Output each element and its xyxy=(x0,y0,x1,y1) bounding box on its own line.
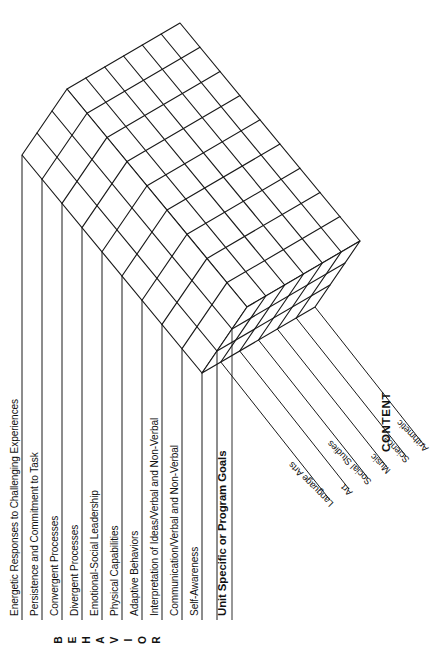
behavior-letter-3: A xyxy=(95,636,106,644)
diagram-canvas: Energetic Responses to Challenging Exper… xyxy=(0,0,445,663)
behavior-label-4: Emotional-Social Leadership xyxy=(89,490,100,616)
content-axis-title: CONTENT xyxy=(379,392,392,452)
curriculum-cube-diagram: Energetic Responses to Challenging Exper… xyxy=(0,0,445,663)
behavior-label-9: Self-Awareness xyxy=(189,547,200,616)
behavior-label-7: Interpretation of Ideas/Verbal and Non-V… xyxy=(149,418,160,616)
behavior-letter-5: I xyxy=(123,638,134,641)
behavior-letter-1: E xyxy=(67,636,78,643)
behavior-letter-0: B xyxy=(53,636,64,643)
goals-axis-label: Unit Specific or Program Goals xyxy=(216,451,228,616)
behavior-label-2: Convergent Processes xyxy=(49,516,60,616)
behavior-label-5: Physical Capabilities xyxy=(109,525,120,616)
behavior-label-0: Energetic Responses to Challenging Exper… xyxy=(9,399,20,616)
behavior-letter-2: H xyxy=(81,636,92,643)
behavior-letter-7: R xyxy=(151,636,162,644)
behavior-label-6: Adaptive Behaviors xyxy=(129,531,140,616)
behavior-label-3: Divergent Processes xyxy=(69,525,80,616)
behavior-label-1: Persistence and Commitment to Task xyxy=(29,451,40,616)
behavior-label-8: Communication/Verbal and Non-Verbal xyxy=(169,445,180,616)
behavior-letter-4: V xyxy=(109,636,120,643)
behavior-letter-6: O xyxy=(137,636,148,644)
